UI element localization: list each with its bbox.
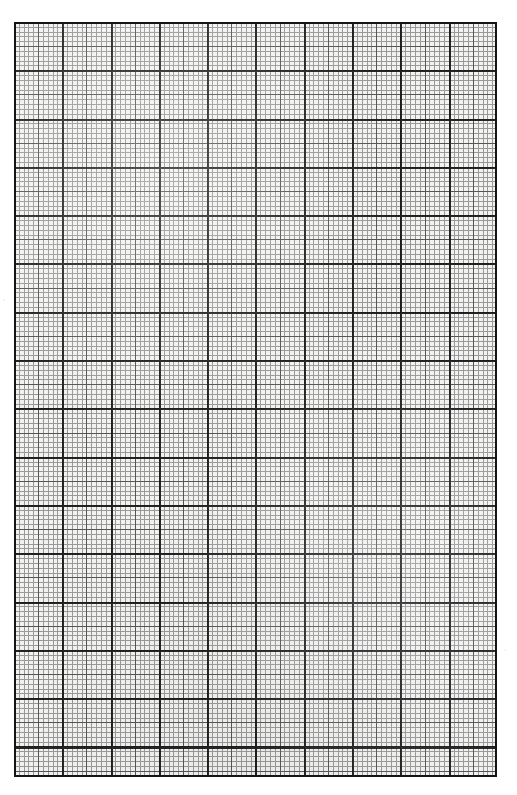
paper-sheet: [0, 0, 517, 795]
major-gridlines: [14, 22, 497, 777]
graph-paper-grid: [14, 22, 497, 777]
